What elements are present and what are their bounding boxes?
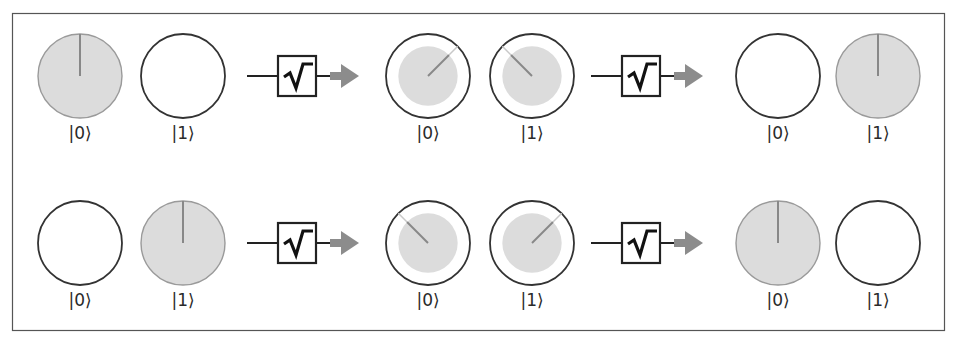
qubit-label: |1⟩ xyxy=(866,123,889,143)
qubit-label: |0⟩ xyxy=(766,123,789,143)
qubit-label: |0⟩ xyxy=(68,290,91,310)
qubit-label: |1⟩ xyxy=(520,123,543,143)
arrow-shaft xyxy=(674,72,686,80)
qubit-label: |1⟩ xyxy=(171,123,194,143)
sqrt-not-diagram: |0⟩|1⟩|0⟩|1⟩|0⟩|1⟩|0⟩|1⟩|0⟩|1⟩|0⟩|1⟩ xyxy=(0,0,957,343)
outer-circle xyxy=(38,201,122,285)
qubit-label: |1⟩ xyxy=(520,290,543,310)
arrow-shaft xyxy=(330,72,342,80)
outer-circle xyxy=(736,34,820,118)
qubit-label: |1⟩ xyxy=(171,290,194,310)
qubit-label: |0⟩ xyxy=(416,290,439,310)
qubit-label: |0⟩ xyxy=(416,123,439,143)
qubit-label: |0⟩ xyxy=(68,123,91,143)
outer-circle xyxy=(836,201,920,285)
qubit-label: |1⟩ xyxy=(866,290,889,310)
outer-circle xyxy=(141,34,225,118)
arrow-shaft xyxy=(330,239,342,247)
qubit-label: |0⟩ xyxy=(766,290,789,310)
arrow-shaft xyxy=(674,239,686,247)
